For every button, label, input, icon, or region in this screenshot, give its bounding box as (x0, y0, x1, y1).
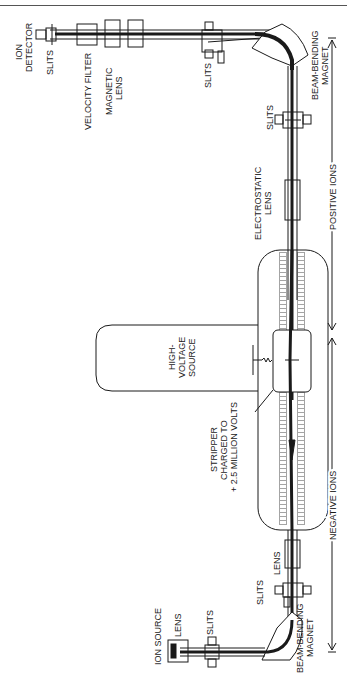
stripper-terminal (273, 330, 311, 392)
detector-beamline (36, 20, 270, 63)
lower-beamline (275, 530, 311, 625)
ion-detector (36, 30, 46, 39)
ion-direction-markers (328, 38, 336, 652)
label-stripper-3: + 2.5 MILLION VOLTS (229, 402, 239, 492)
label-lens-lower: LENS (272, 551, 282, 575)
label-beam-bending-magnet-top-2: MAGNET (320, 46, 330, 85)
beam-bending-magnet-bottom (180, 612, 302, 660)
accelerator-diagram: ION DETECTOR SLITS VELOCITY FILTER MAGNE… (0, 0, 347, 673)
label-ion-source: ION SOURCE (153, 608, 163, 665)
label-beam-bending-magnet-bottom-1: BEAM-BENDING (295, 603, 305, 673)
label-beam-bending-magnet-top-1: BEAM-BENDING (310, 30, 320, 100)
label-ion-detector-2: DETECTOR (24, 22, 34, 72)
label-electrostatic-lens-1: ELECTROSTATIC (253, 166, 263, 240)
label-magnetic-lens-2: LENS (114, 76, 124, 100)
label-stripper-2: CHARGED TO (219, 420, 229, 480)
label-high-voltage-3: SOURCE (187, 338, 197, 377)
label-slits-detector: SLITS (45, 50, 55, 75)
label-high-voltage-2: VOLTAGE (177, 337, 187, 378)
label-slits-source: SLITS (205, 610, 215, 635)
label-beam-bending-magnet-bottom-2: MAGNET (305, 618, 315, 657)
label-electrostatic-lens-2: LENS (263, 191, 273, 215)
label-velocity-filter: VELOCITY FILTER (83, 52, 93, 130)
label-slits-top: SLITS (203, 63, 213, 88)
label-magnetic-lens-1: MAGNETIC (104, 67, 114, 115)
diagram-frame: ION DETECTOR SLITS VELOCITY FILTER MAGNE… (0, 0, 347, 673)
label-ion-detector-1: ION (14, 44, 24, 60)
label-negative-ions: NEGATIVE IONS (328, 471, 338, 540)
label-high-voltage-1: HIGH- (167, 345, 177, 371)
label-slits-upper: SLITS (265, 105, 275, 130)
label-slits-lower: SLITS (255, 580, 265, 605)
label-lens-source: LENS (173, 613, 183, 637)
label-positive-ions: POSITIVE IONS (328, 164, 338, 230)
beam-bending-magnet-top (252, 24, 308, 70)
label-stripper-1: STRIPPER (209, 426, 219, 472)
